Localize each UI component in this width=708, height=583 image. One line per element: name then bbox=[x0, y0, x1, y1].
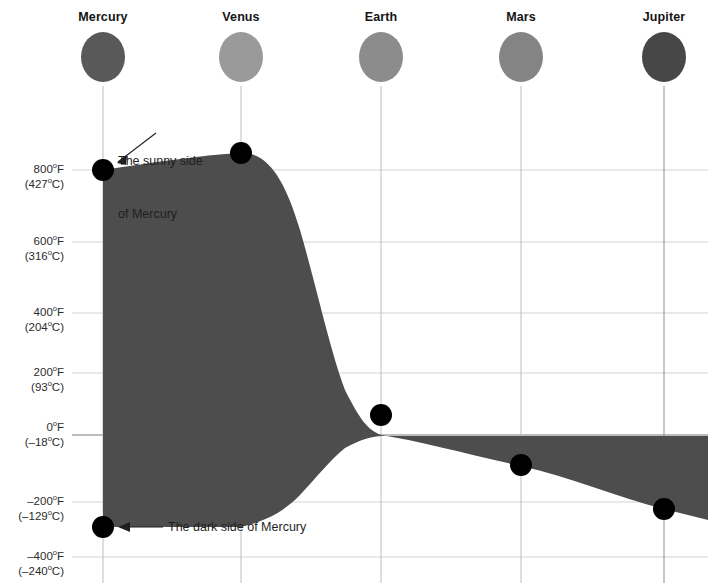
data-point-mars[interactable] bbox=[510, 454, 532, 476]
data-point-mercury-dark[interactable] bbox=[92, 516, 114, 538]
planet-label-mars: Mars bbox=[506, 10, 536, 24]
data-point-jupiter[interactable] bbox=[653, 498, 675, 520]
y-tick-0f-fahrenheit: 0oF bbox=[0, 420, 64, 435]
y-tick-minus200f-fahrenheit: –200oF bbox=[0, 494, 64, 509]
planet-circle-jupiter bbox=[642, 32, 686, 82]
annotation-sunny-side: The sunny side of Mercury bbox=[118, 117, 203, 259]
data-point-mercury-sunny[interactable] bbox=[92, 159, 114, 181]
y-tick-800f-celsius: (427oC) bbox=[0, 177, 64, 192]
planet-label-mercury: Mercury bbox=[78, 10, 127, 24]
data-point-earth[interactable] bbox=[370, 404, 392, 426]
y-tick-200f: 200oF (93oC) bbox=[0, 365, 64, 395]
data-point-venus[interactable] bbox=[230, 142, 252, 164]
planet-circle-mercury bbox=[81, 32, 125, 82]
annotation-sunny-line2: of Mercury bbox=[118, 206, 203, 224]
y-tick-0f: 0oF (–18oC) bbox=[0, 420, 64, 450]
planet-circles bbox=[81, 32, 686, 82]
planet-temperature-chart: Mercury Venus Earth Mars Jupiter 800oF (… bbox=[0, 0, 708, 583]
planet-circle-venus bbox=[219, 32, 263, 82]
y-tick-200f-celsius: (93oC) bbox=[0, 380, 64, 395]
y-tick-600f-celsius: (316oC) bbox=[0, 249, 64, 264]
chart-canvas bbox=[0, 0, 708, 583]
annotation-dark-side: The dark side of Mercury bbox=[168, 519, 306, 537]
planet-circle-mars bbox=[499, 32, 543, 82]
y-tick-minus200f: –200oF (–129oC) bbox=[0, 494, 64, 524]
annotation-sunny-line1: The sunny side bbox=[118, 153, 203, 171]
y-tick-200f-fahrenheit: 200oF bbox=[0, 365, 64, 380]
y-tick-600f-fahrenheit: 600oF bbox=[0, 234, 64, 249]
y-tick-minus400f-fahrenheit: –400oF bbox=[0, 549, 64, 564]
planet-label-earth: Earth bbox=[365, 10, 397, 24]
y-tick-400f-celsius: (204oC) bbox=[0, 320, 64, 335]
planet-circle-earth bbox=[359, 32, 403, 82]
y-tick-400f: 400oF (204oC) bbox=[0, 305, 64, 335]
y-tick-600f: 600oF (316oC) bbox=[0, 234, 64, 264]
y-tick-800f: 800oF (427oC) bbox=[0, 162, 64, 192]
planet-label-jupiter: Jupiter bbox=[643, 10, 685, 24]
planet-label-venus: Venus bbox=[222, 10, 259, 24]
y-tick-800f-fahrenheit: 800oF bbox=[0, 162, 64, 177]
y-tick-0f-celsius: (–18oC) bbox=[0, 435, 64, 450]
y-tick-minus400f-celsius: (–240oC) bbox=[0, 564, 64, 579]
y-tick-minus400f: –400oF (–240oC) bbox=[0, 549, 64, 579]
y-tick-400f-fahrenheit: 400oF bbox=[0, 305, 64, 320]
y-tick-minus200f-celsius: (–129oC) bbox=[0, 509, 64, 524]
